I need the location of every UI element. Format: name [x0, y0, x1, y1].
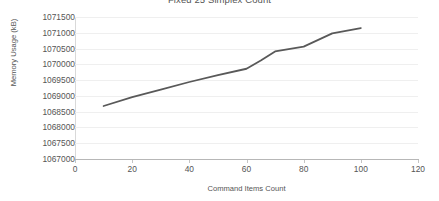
x-tick-label: 40 — [169, 165, 209, 173]
y-tick-label: 1069000 — [29, 92, 75, 100]
x-tick-label: 100 — [341, 165, 381, 173]
series-line-memory-usage — [75, 17, 418, 159]
x-tick-label: 60 — [227, 165, 267, 173]
x-tick-mark — [75, 160, 76, 163]
line-chart: Fixed 25 Simplex Count Memory Usage (kB)… — [0, 0, 439, 201]
y-tick-label: 1070000 — [29, 60, 75, 68]
x-tick-label: 20 — [112, 165, 152, 173]
x-tick-mark — [304, 160, 305, 163]
chart-title: Fixed 25 Simplex Count — [0, 0, 439, 5]
x-tick-mark — [247, 160, 248, 163]
y-tick-label: 1067500 — [29, 139, 75, 147]
x-tick-mark — [361, 160, 362, 163]
y-axis-title: Memory Usage (kB) — [9, 0, 18, 112]
y-tick-label: 1071000 — [29, 29, 75, 37]
y-tick-label: 1068000 — [29, 123, 75, 131]
x-tick-label: 0 — [55, 165, 95, 173]
y-tick-label: 1069500 — [29, 76, 75, 84]
plot-area — [75, 17, 418, 159]
y-tick-label: 1068500 — [29, 108, 75, 116]
x-tick-label: 80 — [284, 165, 324, 173]
y-tick-label: 1071500 — [29, 13, 75, 21]
y-tick-label: 1067000 — [29, 155, 75, 163]
x-tick-mark — [132, 160, 133, 163]
x-tick-mark — [418, 160, 419, 163]
x-tick-mark — [189, 160, 190, 163]
x-tick-label: 120 — [398, 165, 438, 173]
y-tick-label: 1070500 — [29, 45, 75, 53]
x-axis-title: Command Items Count — [75, 184, 418, 193]
